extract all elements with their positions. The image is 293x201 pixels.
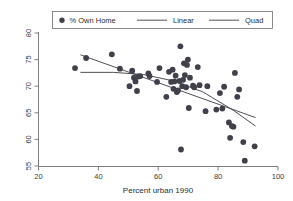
data-point	[137, 73, 143, 79]
data-point	[232, 70, 238, 76]
axes-group	[39, 32, 279, 167]
data-point	[191, 84, 197, 90]
data-point	[178, 43, 184, 49]
data-point	[109, 51, 115, 57]
data-point	[133, 79, 139, 85]
legend-label-quad: Quad	[245, 16, 263, 25]
data-point	[227, 135, 233, 141]
y-tick-label-80: 80	[24, 29, 33, 37]
data-point	[184, 62, 190, 68]
legend-label-own-home: % Own Home	[70, 16, 116, 25]
data-point	[129, 68, 135, 74]
quad-fit-line	[80, 72, 255, 126]
data-point	[219, 106, 225, 112]
data-point	[147, 73, 153, 79]
x-axis-title: Percent urban 1990	[123, 186, 194, 195]
y-tick-label-60: 60	[24, 135, 33, 143]
data-point	[242, 158, 248, 164]
x-tick-label-60: 60	[154, 172, 162, 181]
chart-legend: % Own Home Linear Quad	[53, 12, 273, 29]
linear-fit-path	[80, 55, 255, 118]
data-point	[83, 55, 89, 61]
legend-label-linear: Linear	[173, 16, 194, 25]
data-point	[170, 67, 176, 73]
y-tick-label-65: 65	[24, 109, 33, 117]
data-point	[217, 90, 223, 96]
data-point	[127, 83, 133, 89]
x-tick-label-40: 40	[94, 172, 102, 181]
linear-fit-line	[80, 55, 255, 118]
chart-figure: 80 75 70 65 60 55 20 40 60 80 100	[0, 0, 293, 201]
data-point	[204, 83, 210, 89]
y-axis-ticks: 80 75 70 65 60 55	[24, 29, 39, 170]
data-point	[240, 139, 246, 145]
data-point	[230, 124, 236, 130]
data-point	[203, 108, 209, 114]
data-point	[221, 84, 227, 90]
data-point	[72, 65, 78, 71]
data-point	[172, 79, 178, 85]
data-point	[175, 88, 181, 94]
y-tick-label-75: 75	[24, 55, 33, 63]
x-tick-label-80: 80	[214, 172, 222, 181]
data-point	[187, 75, 193, 81]
data-point	[173, 73, 179, 79]
x-tick-label-100: 100	[272, 172, 285, 181]
data-point	[178, 147, 184, 153]
x-axis-ticks: 20 40 60 80 100	[34, 167, 284, 182]
data-point	[117, 66, 123, 72]
data-point	[236, 86, 242, 92]
data-point	[182, 72, 188, 78]
quad-fit-path	[80, 72, 255, 126]
y-tick-label-70: 70	[24, 82, 33, 90]
y-tick-label-55: 55	[24, 162, 33, 170]
data-point	[154, 79, 160, 85]
data-point	[157, 65, 163, 71]
data-point	[186, 105, 192, 111]
data-point	[163, 94, 169, 100]
legend-marker-own-home	[59, 18, 64, 23]
data-point	[234, 94, 240, 100]
data-point	[197, 82, 203, 88]
data-point	[183, 84, 189, 90]
data-point	[185, 57, 191, 63]
data-point	[134, 88, 140, 94]
data-point	[195, 64, 201, 70]
x-tick-label-20: 20	[34, 172, 42, 181]
scatter-plot: 80 75 70 65 60 55 20 40 60 80 100	[0, 0, 293, 201]
data-point	[213, 107, 219, 113]
data-point	[252, 143, 258, 149]
